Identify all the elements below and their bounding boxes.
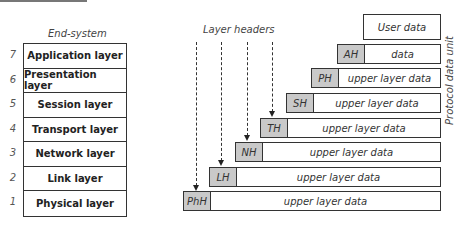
pdu-link: LH upper layer data: [209, 167, 441, 187]
dashed-line: [272, 42, 273, 112]
header-th: TH: [261, 119, 288, 137]
dashed-line: [247, 42, 248, 136]
pdu-data: upper layer data: [237, 168, 440, 186]
pdu-data: upper layer data: [314, 94, 440, 112]
osi-encapsulation-diagram: End-system 7 6 5 4 3 2 1 Application lay…: [0, 0, 461, 231]
header-sh: SH: [287, 94, 314, 112]
link-layer: Link layer: [24, 167, 126, 192]
header-ah: AH: [338, 45, 365, 63]
dashed-line: [196, 42, 197, 186]
pdu-session: SH upper layer data: [286, 93, 441, 113]
header-ph: PH: [312, 69, 339, 87]
arrow-down-icon: [218, 160, 224, 166]
layer-number: 5: [8, 98, 18, 109]
network-layer: Network layer: [24, 142, 126, 167]
arrow-down-icon: [244, 135, 250, 141]
end-system-caption: End-system: [48, 28, 107, 39]
pdu-data: data: [365, 45, 440, 63]
physical-layer: Physical layer: [24, 191, 126, 216]
transport-layer: Transport layer: [24, 118, 126, 143]
layer-number: 3: [8, 147, 18, 158]
presentation-layer: Presentation layer: [24, 69, 126, 94]
pdu-physical: PhH upper layer data: [183, 191, 441, 211]
header-phh: PhH: [184, 192, 211, 210]
pdu-presentation: PH upper layer data: [311, 68, 441, 88]
top-divider: [0, 0, 87, 2]
header-nh: NH: [236, 143, 263, 161]
osi-layer-stack: Application layer Presentation layer Ses…: [23, 43, 127, 217]
session-layer: Session layer: [24, 93, 126, 118]
layer-number: 6: [8, 74, 18, 85]
pdu-data: upper layer data: [211, 192, 440, 210]
layer-number: 7: [8, 49, 18, 60]
pdu-data: upper layer data: [288, 119, 440, 137]
layer-number: 4: [8, 123, 18, 134]
layer-number: 2: [8, 172, 18, 183]
pdu-data: upper layer data: [263, 143, 440, 161]
application-layer: Application layer: [24, 44, 126, 69]
header-lh: LH: [210, 168, 237, 186]
pdu-transport: TH upper layer data: [260, 118, 441, 138]
pdu-caption: Protocol data unit: [444, 36, 455, 125]
layer-headers-caption: Layer headers: [203, 24, 275, 35]
arrow-down-icon: [269, 111, 275, 117]
layer-number: 1: [8, 196, 18, 207]
user-data-box: User data: [363, 14, 441, 40]
pdu-data: upper layer data: [339, 69, 440, 87]
user-data-label: User data: [364, 15, 440, 39]
pdu-application: AH data: [337, 44, 441, 64]
dashed-line: [221, 42, 222, 161]
pdu-network: NH upper layer data: [235, 142, 441, 162]
